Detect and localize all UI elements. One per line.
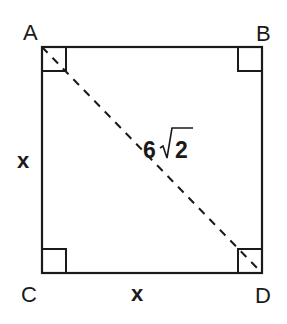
- vertex-label-a: A: [23, 20, 38, 45]
- right-angle-marker-b: [238, 47, 262, 71]
- vertex-label-c: C: [21, 282, 37, 307]
- square-diagram: A B C D x x 6 2: [0, 0, 287, 324]
- diagonal-coefficient: 6: [143, 137, 156, 163]
- diagonal-radicand: 2: [175, 137, 188, 163]
- vertex-label-d: D: [255, 283, 271, 308]
- side-label-left: x: [17, 148, 30, 173]
- diagonal-length-label: 6 2: [143, 128, 193, 163]
- right-angle-marker-c: [42, 249, 66, 273]
- vertex-label-b: B: [256, 21, 271, 46]
- side-label-bottom: x: [131, 281, 144, 306]
